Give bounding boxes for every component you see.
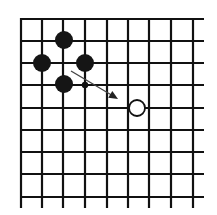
black-stone	[76, 54, 94, 72]
black-stone	[33, 54, 51, 72]
black-stone	[55, 75, 73, 93]
white-stone	[129, 100, 145, 116]
black-stone	[55, 31, 73, 49]
marker-dot	[82, 82, 88, 88]
board-grid	[20, 18, 204, 208]
go-board-diagram	[0, 0, 217, 215]
arrow-head-icon	[108, 91, 118, 99]
